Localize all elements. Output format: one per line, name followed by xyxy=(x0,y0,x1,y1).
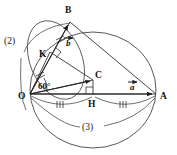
vector-label-b: b xyxy=(64,38,73,48)
arc-label-2: (2) xyxy=(4,36,15,47)
point-label-A: A xyxy=(160,91,167,101)
arc-label-3: (3) xyxy=(82,122,93,133)
point-label-B: B xyxy=(65,5,72,15)
inner-circle xyxy=(17,12,96,108)
segment-KC xyxy=(50,52,93,80)
vector-label-a-text: a xyxy=(130,82,135,92)
right-angle-marker-H xyxy=(86,87,93,94)
point-label-C: C xyxy=(95,70,102,80)
point-label-O: O xyxy=(18,91,25,101)
angle-label-60-degrees: 60° xyxy=(38,81,51,91)
point-label-K: K xyxy=(39,49,47,59)
point-label-H: H xyxy=(88,99,96,109)
vector-label-a: a xyxy=(128,82,137,92)
geometry-canvas: O A B C H K a b 60° (2) (3) xyxy=(0,0,177,155)
vector-label-b-text: b xyxy=(66,38,71,48)
geometry-figure: O A B C H K a b 60° (2) (3) xyxy=(0,0,177,155)
